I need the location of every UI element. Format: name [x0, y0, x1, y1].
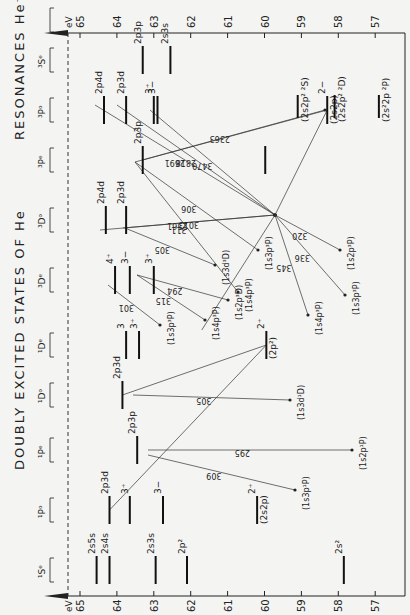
level-label: 2p3d: [116, 181, 126, 204]
transition-wavelength: 295: [235, 448, 250, 457]
level-label: 2s5s: [87, 533, 97, 554]
level-label: 2p3p: [133, 21, 143, 44]
tick-label: 61: [223, 15, 234, 28]
tick-label: 63: [149, 599, 160, 612]
level-label: 2p3p: [133, 121, 143, 144]
tick-label: 60: [260, 15, 271, 28]
energy-axis-top: [44, 30, 405, 596]
transition-target-label: (1s3p¹P): [302, 476, 311, 510]
transition-target-label: (1s3p³P): [352, 281, 361, 315]
tick-label: 63: [149, 15, 160, 28]
resonance-label: (2s²2p ²P): [381, 78, 391, 122]
transition-target-label: (1s3p³P): [167, 311, 176, 345]
level-label: 3⁺: [144, 253, 154, 264]
symmetry-label: ³Pᵉ: [37, 155, 47, 168]
symmetry-label: ³Dᵉ: [37, 273, 47, 288]
tick-label: 65: [75, 15, 86, 28]
level-label: 3⁺: [120, 483, 130, 494]
transition-target-label: (1s4p³P): [245, 278, 254, 312]
tick-label: 60: [260, 599, 271, 612]
level-label: 2p²: [177, 539, 187, 554]
tick-label: 57: [370, 15, 381, 28]
symmetry-label: ³Pᵒ: [37, 105, 47, 118]
symmetry-label: ¹Dᵉ: [37, 338, 47, 353]
level-label: 2p3d: [116, 71, 126, 94]
level-label: 2p3d: [112, 356, 122, 379]
transition-wavelength: 305: [155, 245, 170, 254]
symmetry-label: ³Dᵒ: [37, 213, 47, 228]
level-label: 2s3s: [146, 533, 156, 554]
transitions: 309(1s3p¹P)295(1s2p¹P)305(1s3d¹D)301(1s3…: [95, 105, 368, 510]
symmetry-label: ¹Pᵉ: [37, 445, 47, 458]
transition-wavelength: 305: [196, 396, 211, 405]
tick-label: 62: [186, 599, 197, 612]
transition-target-label: (1s3d³D): [222, 250, 231, 285]
transition-wavelength: 3013: [179, 220, 199, 229]
level-label: 3: [116, 323, 126, 329]
tick-label: 61: [223, 599, 234, 612]
tick-label: 62: [186, 15, 197, 28]
transition-wavelength: 309: [206, 471, 221, 480]
tick-label: 57: [370, 599, 381, 612]
transition-wavelength: 294: [167, 286, 182, 295]
tick-label: 64: [112, 599, 123, 612]
symmetry-label: ³Sᵉ: [37, 55, 47, 68]
resonance-label: (2s2p² ²D): [337, 76, 347, 122]
axis-unit-label-bottom: eV: [64, 599, 74, 612]
axis-unit-label-top: eV: [64, 15, 74, 28]
tick-label: 65: [75, 599, 86, 612]
tick-label: 58: [333, 15, 344, 28]
symmetry-label: ¹Dᵒ: [37, 388, 47, 403]
transition-wavelength: 345: [276, 263, 291, 272]
level-sublabel: (2s2p): [259, 495, 269, 524]
level-label: 2⁺: [256, 318, 266, 329]
level-label: 3−: [153, 481, 163, 494]
tick-label: 59: [296, 599, 307, 612]
tick-label: 64: [112, 15, 123, 28]
level-label: 2p3d: [100, 471, 110, 494]
transition-target-label: (1s3p³P): [265, 236, 274, 270]
transition-target-label: (1s4p³P): [315, 301, 324, 335]
symmetry-label: ¹Pᵒ: [37, 505, 47, 518]
tick-label: 59: [296, 15, 307, 28]
transition-wavelength: 315: [156, 296, 171, 305]
level-label: 2⁺: [247, 483, 257, 494]
tick-label: 58: [333, 599, 344, 612]
level-label: 2p3p: [127, 411, 137, 434]
level-label: 3⁺: [129, 318, 139, 329]
diagram-title: DOUBLY EXCITED STATES OF He: [12, 209, 27, 470]
level-label: 4⁺: [105, 253, 115, 264]
resonances-title: RESONANCES He⁻: [12, 0, 27, 140]
level-label: 3−: [120, 251, 130, 264]
transition-wavelength: 301: [119, 303, 134, 312]
transition-wavelength: 320: [292, 231, 307, 240]
transition-wavelength: 336: [295, 253, 310, 262]
level-sublabel: (2p²): [268, 337, 278, 359]
level-label: 2s²: [334, 540, 344, 554]
transition-target-label: (1s2p¹P): [359, 436, 368, 470]
energy-level-diagram: DOUBLY EXCITED STATES OF He RESONANCES H…: [0, 0, 410, 615]
transition-wavelength: 306: [181, 204, 196, 213]
symmetry-columns: ¹Sᵉ¹Pᵒ¹Pᵉ¹Dᵒ¹Dᵉ³Dᵉ³Dᵒ³Pᵉ³Pᵒ³Sᵉ: [37, 8, 54, 582]
transition-target-label: (1s3d¹D): [297, 385, 306, 420]
level-label: 2s4s: [100, 533, 110, 554]
level-label: 2p4d: [94, 71, 104, 94]
transition-wavelength: 2363: [210, 134, 230, 143]
transition-wavelength: 3470: [192, 161, 212, 170]
energy-axis-bottom: [44, 593, 405, 599]
transition-target-label: (1s2p³P): [347, 236, 356, 270]
level-label: 2−: [317, 81, 327, 94]
resonance-levels: (2s2p² ²S)(2s2p² ²D)(2s²2p ²P): [298, 76, 391, 122]
resonance-label: (2s2p² ²S): [300, 77, 310, 122]
level-label: 2p4d: [96, 181, 106, 204]
level-label: 3−: [147, 81, 157, 94]
symmetry-label: ¹Sᵉ: [37, 565, 47, 578]
level-label: 2s3s: [160, 23, 170, 44]
